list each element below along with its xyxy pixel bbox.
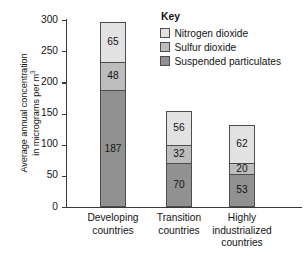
- y-axis-tick-mark: [62, 82, 67, 83]
- legend-item-sulfur-dioxide: Sulfur dioxide: [160, 40, 281, 54]
- x-axis-category-label-line: industrialized: [187, 225, 297, 238]
- bar-segment: 53: [229, 174, 255, 207]
- bar-3: 622053: [229, 125, 255, 207]
- chart-legend: Key Nitrogen dioxide Sulfur dioxide Susp…: [160, 11, 281, 68]
- x-axis-category-label-line: Highly: [187, 212, 297, 225]
- bar-segment-value: 53: [236, 185, 247, 195]
- bar-segment-value: 56: [173, 123, 184, 133]
- y-axis-tick-label: 150: [41, 107, 58, 118]
- legend-item-suspended-particulates: Suspended particulates: [160, 54, 281, 68]
- y-axis-title-line-1: Average annual concentration: [19, 18, 31, 208]
- legend-label-nitrogen-dioxide: Nitrogen dioxide: [175, 28, 249, 39]
- legend-swatch-icon-sulfur-dioxide: [160, 42, 170, 52]
- y-axis-title-superscript: 3: [28, 70, 35, 74]
- bar-segment: 56: [166, 111, 192, 146]
- bar-segment: 62: [229, 125, 255, 164]
- legend-swatch-icon-suspended-particulates: [160, 56, 170, 66]
- bar-segment: 70: [166, 163, 192, 207]
- bar-segment: 65: [100, 22, 126, 63]
- y-axis-tick-label: 200: [41, 76, 58, 87]
- y-axis-tick-label: 300: [41, 14, 58, 25]
- bar-segment-value: 32: [173, 149, 184, 159]
- legend-title: Key: [160, 11, 281, 22]
- y-axis-tick-mark: [62, 207, 67, 208]
- legend-label-suspended-particulates: Suspended particulates: [175, 56, 281, 67]
- x-axis-category-label: Highlyindustrializedcountries: [187, 212, 297, 250]
- x-axis-category-label-line: countries: [187, 237, 297, 250]
- bar-segment: 32: [166, 145, 192, 165]
- bar-segment-value: 20: [236, 164, 247, 174]
- bar-segment-value: 48: [107, 71, 118, 81]
- bar-segment: 187: [100, 90, 126, 207]
- bar-segment: 48: [100, 62, 126, 92]
- y-axis-tick-mark: [62, 20, 67, 21]
- legend-label-sulfur-dioxide: Sulfur dioxide: [175, 42, 237, 53]
- y-axis-tick-mark: [62, 176, 67, 177]
- y-axis-tick-mark: [62, 114, 67, 115]
- y-axis-tick-label: 50: [47, 169, 58, 180]
- bar-segment-value: 187: [105, 144, 122, 154]
- bar-2: 563270: [166, 111, 192, 207]
- y-axis-tick-label: 100: [41, 138, 58, 149]
- bar-segment-value: 70: [173, 180, 184, 190]
- stacked-bar-chart: Average annual concentration in microgra…: [0, 0, 308, 266]
- bar-segment-value: 62: [236, 139, 247, 149]
- y-axis-tick-label: 0: [52, 201, 58, 212]
- legend-swatch-icon-nitrogen-dioxide: [160, 28, 170, 38]
- y-axis-tick-label: 250: [41, 45, 58, 56]
- legend-item-nitrogen-dioxide: Nitrogen dioxide: [160, 26, 281, 40]
- y-axis-tick-mark: [62, 145, 67, 146]
- y-axis-tick-mark: [62, 51, 67, 52]
- bar-1: 6548187: [100, 22, 126, 207]
- bar-segment-value: 65: [107, 37, 118, 47]
